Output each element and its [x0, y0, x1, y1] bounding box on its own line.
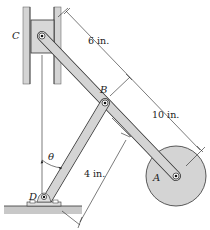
label-d: D [28, 191, 37, 202]
guide-rail-left [23, 7, 30, 84]
label-theta: θ [48, 151, 54, 162]
dimension-label-ba: 10 in. [152, 109, 179, 120]
mechanism-diagram: C B A D θ 6 in. 10 in. 4 in. [0, 0, 210, 230]
label-c: C [12, 30, 20, 41]
ground [4, 206, 82, 214]
label-b: B [99, 84, 107, 95]
dimension-label-cb: 6 in. [88, 35, 109, 46]
label-a: A [152, 172, 160, 183]
dimension-label-db: 4 in. [84, 168, 105, 179]
